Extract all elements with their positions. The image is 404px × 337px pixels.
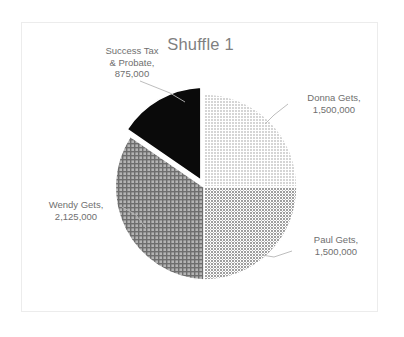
pie-label-success-tax: Success Tax & Probate, 875,000 — [84, 45, 180, 80]
pie-chart-image: Shuffle 1 — [0, 0, 404, 337]
pie-label-success-tax-line3: 875,000 — [84, 68, 180, 80]
pie-label-donna-line2: 1,500,000 — [290, 104, 378, 116]
pie-label-paul-line1: Paul Gets, — [294, 234, 378, 246]
pie-label-wendy-line1: Wendy Gets, — [30, 199, 122, 211]
pie-label-wendy-line2: 2,125,000 — [30, 211, 122, 223]
pie-label-paul: Paul Gets, 1,500,000 — [294, 234, 378, 257]
pie-label-success-tax-line1: Success Tax — [84, 45, 180, 57]
leader-line-donna — [265, 104, 288, 124]
pie-graphic — [22, 23, 379, 313]
pie-label-paul-line2: 1,500,000 — [294, 246, 378, 258]
pie-slice-paul[interactable] — [204, 187, 297, 280]
pie-label-donna: Donna Gets, 1,500,000 — [290, 92, 378, 115]
pie-label-wendy: Wendy Gets, 2,125,000 — [30, 199, 122, 222]
chart-frame[interactable]: Shuffle 1 — [21, 22, 378, 312]
pie-label-donna-line1: Donna Gets, — [290, 92, 378, 104]
pie-label-success-tax-line2: & Probate, — [84, 57, 180, 69]
